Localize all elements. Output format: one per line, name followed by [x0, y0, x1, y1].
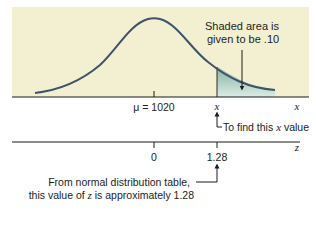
- z-tick-label-1-28: 1.28: [207, 151, 227, 163]
- z-value-note: From normal distribution table, this val…: [29, 176, 194, 202]
- x-note-prefix: To find this: [223, 121, 276, 133]
- x-value-arrow: [217, 114, 222, 127]
- shaded-area-annotation-line1: Shaded area is: [205, 20, 279, 33]
- z-tick-label-0: 0: [151, 151, 157, 163]
- x-tick-label: x: [215, 100, 220, 112]
- z-axis-label: z: [295, 141, 299, 153]
- z-value-arrow: [196, 166, 217, 182]
- x-value-note: To find this x value: [223, 121, 309, 133]
- z-note-line2: this value of z is approximately 1.28: [29, 189, 194, 202]
- z-note-line2-prefix: this value of: [29, 189, 88, 201]
- mean-label: μ = 1020: [133, 101, 174, 113]
- shaded-area-annotation: Shaded area is given to be .10: [205, 20, 279, 46]
- x-note-suffix: value: [281, 121, 309, 133]
- shaded-area-annotation-line2: given to be .10: [205, 33, 279, 46]
- z-note-line2-suffix: is approximately 1.28: [92, 189, 194, 201]
- z-note-line1: From normal distribution table,: [29, 176, 194, 189]
- x-axis-label: x: [295, 100, 300, 112]
